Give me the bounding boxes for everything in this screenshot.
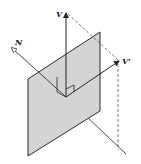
vector-projection-diagram: V N V'	[0, 0, 141, 164]
label-V-prime: V'	[122, 56, 131, 66]
plane	[28, 32, 100, 156]
label-N: N	[15, 37, 22, 47]
diagram-canvas	[0, 0, 141, 164]
label-V: V	[56, 9, 62, 19]
